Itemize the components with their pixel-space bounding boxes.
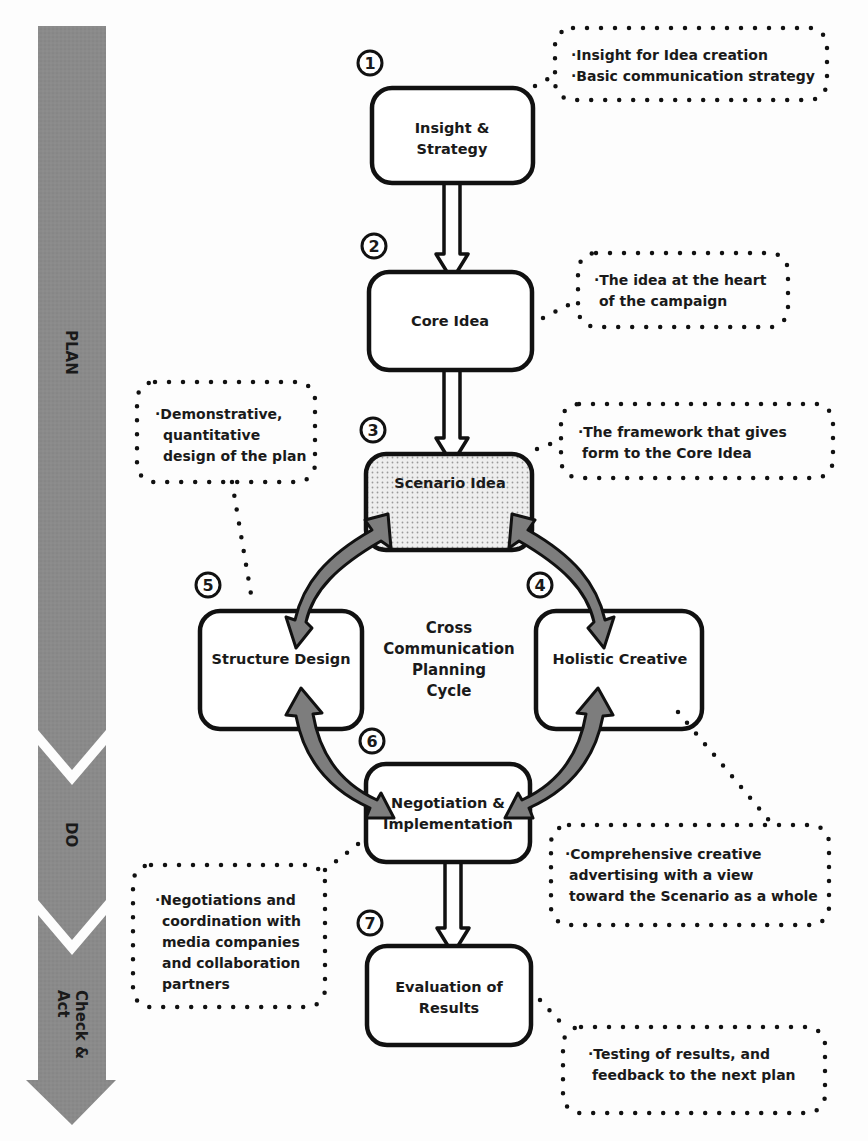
note-texts: ·Insight for Idea creation ·Basic commun… xyxy=(155,47,818,1083)
label-evaluation-line1: Evaluation of xyxy=(395,979,503,995)
svg-text:7: 7 xyxy=(364,914,375,933)
label-insight-line1: Insight & xyxy=(415,120,490,136)
note-core-idea-line1: ·The idea at the heart xyxy=(594,272,767,288)
note-evaluation-line2: feedback to the next plan xyxy=(592,1067,796,1083)
label-insight-line2: Strategy xyxy=(417,141,488,157)
box-evaluation xyxy=(367,946,531,1045)
svg-text:2: 2 xyxy=(368,237,379,256)
arrow-1-to-2 xyxy=(436,183,468,280)
phase-label-do: DO xyxy=(62,822,80,847)
step-number-1: 1 xyxy=(358,51,382,75)
note-structure-line1: ·Demonstrative, xyxy=(155,406,282,422)
phase-label-act: Act xyxy=(54,990,72,1018)
step-number-7: 7 xyxy=(358,911,382,935)
arrow-2-to-3 xyxy=(436,370,468,464)
svg-text:6: 6 xyxy=(366,732,377,751)
note-negotiation-line2: coordination with xyxy=(162,913,301,929)
label-evaluation-line2: Results xyxy=(419,1000,480,1016)
cross-communication-planning-diagram: PLAN DO Check & Act 1 xyxy=(0,0,868,1141)
note-structure-line2: quantitative xyxy=(163,427,260,443)
label-core-idea: Core Idea xyxy=(411,313,489,329)
svg-text:Cycle: Cycle xyxy=(427,682,472,700)
note-negotiation-connector xyxy=(325,841,362,870)
label-holistic-creative: Holistic Creative xyxy=(553,651,688,667)
svg-text:Cross: Cross xyxy=(426,619,473,637)
svg-text:3: 3 xyxy=(367,421,378,440)
svg-text:1: 1 xyxy=(364,54,375,73)
phase-label-plan: PLAN xyxy=(62,330,80,375)
note-scenario-connector xyxy=(537,440,561,449)
box-structure-design xyxy=(200,611,362,729)
note-holistic-connector xyxy=(678,712,773,825)
phase-check-act-segment xyxy=(26,915,116,1125)
step-number-3: 3 xyxy=(361,418,385,442)
note-insight-line2: ·Basic communication strategy xyxy=(571,68,815,84)
svg-text:Planning: Planning xyxy=(412,661,486,679)
note-core-idea-border xyxy=(578,253,788,327)
note-evaluation-line1: ·Testing of results, and xyxy=(588,1046,770,1062)
note-negotiation-line1: ·Negotiations and xyxy=(155,892,296,908)
note-insight-connector xyxy=(535,75,555,86)
note-structure-line3: design of the plan xyxy=(163,448,306,464)
note-scenario-line1: ·The framework that gives xyxy=(578,424,787,440)
note-scenario-line2: form to the Core Idea xyxy=(582,445,752,461)
step-number-2: 2 xyxy=(362,234,386,258)
note-negotiation-line5: partners xyxy=(162,976,230,992)
svg-text:4: 4 xyxy=(534,576,545,595)
step-number-5: 5 xyxy=(196,573,220,597)
note-core-idea-connector xyxy=(543,300,578,318)
step-number-6: 6 xyxy=(360,729,384,753)
arrow-6-to-7 xyxy=(437,862,469,954)
note-holistic-line2: advertising with a view xyxy=(569,867,753,883)
label-structure-design: Structure Design xyxy=(212,651,351,667)
svg-text:Communication: Communication xyxy=(383,640,514,658)
note-negotiation-line3: media companies xyxy=(162,934,300,950)
label-scenario-idea: Scenario Idea xyxy=(394,475,506,491)
note-insight-border xyxy=(555,28,827,100)
phase-label-check: Check & xyxy=(72,990,90,1059)
note-holistic-line3: toward the Scenario as a whole xyxy=(569,888,818,904)
note-core-idea-line2: of the campaign xyxy=(599,293,727,309)
svg-text:5: 5 xyxy=(202,576,213,595)
label-negotiation-line2: Implementation xyxy=(383,816,513,832)
note-holistic-line1: ·Comprehensive creative xyxy=(565,846,762,862)
note-structure-connector xyxy=(232,482,252,600)
note-scenario-border xyxy=(561,404,833,478)
step-number-4: 4 xyxy=(528,573,552,597)
phase-band: PLAN DO Check & Act xyxy=(26,26,116,1125)
note-insight-line1: ·Insight for Idea creation xyxy=(571,47,768,63)
cycle-center-label: Cross Communication Planning Cycle xyxy=(383,619,514,700)
label-negotiation-line1: Negotiation & xyxy=(391,795,505,811)
note-negotiation-line4: and collaboration xyxy=(162,955,300,971)
phase-plan-segment xyxy=(38,26,106,770)
note-evaluation-connector xyxy=(540,1000,563,1025)
